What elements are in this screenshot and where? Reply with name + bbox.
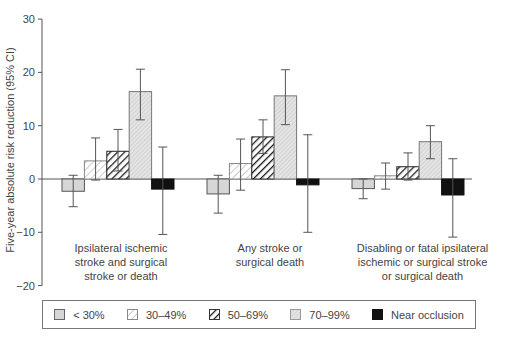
group-label-1: Ipsilateral ischemic stroke and surgical… [52,241,190,283]
group-label-3: Disabling or fatal ipsilateral ischemic … [340,241,505,283]
legend-label: < 30% [73,309,105,321]
legend-item-70-99: 70–99% [290,309,349,321]
y-tick-label: −10 [16,226,35,238]
swatch-light-gray [54,309,65,320]
y-tick-label: −20 [16,280,35,292]
legend-label: Near occlusion [391,309,464,321]
legend: < 30% 30–49% 50–69% 70–99% Near occlusio… [42,300,476,329]
y-tick-label: 30 [23,13,35,25]
legend-label: 70–99% [309,309,349,321]
swatch-dots [290,309,301,320]
legend-label: 50–69% [228,309,268,321]
legend-item-30-49: 30–49% [127,309,186,321]
y-axis-label: Five-year absolute risk reduction (95% C… [4,47,16,252]
group-label-2: Any stroke or surgical death [190,241,350,269]
swatch-black [372,309,383,320]
bars [62,69,464,237]
legend-label: 30–49% [146,309,186,321]
y-tick-label: 20 [23,66,35,78]
swatch-light-hatch [127,309,138,320]
legend-item-lt30: < 30% [54,309,105,321]
legend-item-50-69: 50–69% [209,309,268,321]
legend-item-near-occlusion: Near occlusion [372,309,464,321]
y-tick-label: 0 [29,173,35,185]
swatch-bold-hatch [209,309,220,320]
y-tick-label: 10 [23,120,35,132]
